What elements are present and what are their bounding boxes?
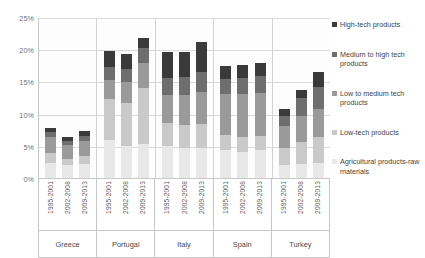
bar-segment [313,163,324,178]
stacked-bar-chart: 0%5%10%15%20%25% 1995-20012002-20082009-… [0,0,425,258]
legend-label: High-tech products [340,20,400,30]
bar-segment [255,93,266,136]
bar-segment [62,165,73,178]
y-axis-tick-label: 0% [23,175,34,184]
bar-segment [62,145,73,159]
bar-segment [179,95,190,125]
legend-item[interactable]: Medium to high tech products [332,50,422,69]
bar-segment [104,80,115,99]
legend-label: Low-tech products [340,128,399,138]
period-label: 2002-2008 [120,181,131,214]
legend-swatch-icon [332,22,337,27]
bar-segment [162,52,173,78]
bar[interactable] [255,63,266,178]
bar-group-greece [39,18,97,178]
y-axis-tick-label: 15% [19,78,34,87]
bar-segment [196,92,207,124]
bar-segment [45,153,56,163]
bar-segment [237,78,248,95]
period-label: 1995-2001 [45,181,56,214]
y-axis-tick-label: 20% [19,46,34,55]
bar[interactable] [220,66,231,178]
legend-label: Agricultural products-raw materials [340,157,422,176]
legend-label: Medium to high tech products [340,50,422,69]
bar-segment [138,88,149,144]
period-labels: 1995-20012002-20082009-2013 [155,179,212,231]
bar-segment [313,137,324,162]
period-labels: 1995-20012002-20082009-2013 [97,179,154,231]
bar[interactable] [162,52,173,178]
bar[interactable] [196,42,207,178]
country-label: Spain [214,231,271,257]
bar-groups [39,18,330,178]
bar[interactable] [138,38,149,178]
bar-segment [121,103,132,147]
bar-segment [196,148,207,178]
x-axis-group-spain: 1995-20012002-20082009-2013Spain [214,179,272,258]
bar-segment [196,124,207,148]
bar-segment [237,94,248,137]
period-label: 2009-2013 [79,181,90,214]
bar[interactable] [45,128,56,178]
bar-group-turkey [273,18,330,178]
bar-segment [313,72,324,87]
bar-segment [279,126,290,148]
bar-segment [162,123,173,146]
legend-item[interactable]: Low to medium tech products [332,89,422,108]
period-label: 2009-2013 [312,181,323,214]
bar-segment [104,140,115,178]
bar-segment [121,69,132,83]
legend-item[interactable]: Agricultural products-raw materials [332,157,422,176]
bar[interactable] [79,131,90,178]
bar-segment [121,82,132,103]
bar-segment [162,146,173,178]
bar-segment [296,164,307,178]
bar-segment [79,141,90,156]
plot-area [38,18,330,179]
period-label: 2009-2013 [137,181,148,214]
bar-segment [196,42,207,73]
bar-segment [237,152,248,178]
country-label: Greece [39,231,96,257]
bar[interactable] [313,72,324,178]
x-axis-group-greece: 1995-20012002-20082009-2013Greece [38,179,97,258]
bar[interactable] [279,109,290,178]
legend-item[interactable]: Low-tech products [332,128,422,138]
bar[interactable] [179,52,190,178]
period-label: 1995-2001 [103,181,114,214]
bar-segment [296,142,307,164]
legend-item[interactable]: High-tech products [332,20,422,30]
period-labels: 1995-20012002-20082009-2013 [214,179,271,231]
chart-legend: High-tech productsMedium to high tech pr… [332,20,422,196]
bar-segment [104,67,115,80]
bar-segment [162,95,173,123]
x-axis: 1995-20012002-20082009-2013Greece1995-20… [38,179,330,258]
bar-segment [279,148,290,165]
bar-segment [162,78,173,95]
bar[interactable] [104,51,115,178]
period-labels: 1995-20012002-20082009-2013 [39,179,96,231]
period-label: 2002-2008 [62,181,73,214]
bar[interactable] [296,90,307,178]
x-axis-group-turkey: 1995-20012002-20082009-2013Turkey [272,179,330,258]
bar-segment [237,65,248,77]
bar[interactable] [121,54,132,178]
legend-label: Low to medium tech products [340,89,422,108]
country-label: Turkey [272,231,329,257]
bar-group-italy [156,18,214,178]
x-axis-group-portugal: 1995-20012002-20082009-2013Portugal [97,179,155,258]
bar-segment [220,135,231,150]
legend-swatch-icon [332,130,337,135]
bar[interactable] [237,65,248,178]
y-axis-tick-label: 10% [19,110,34,119]
bar-segment [179,77,190,95]
bar-segment [220,79,231,94]
period-labels: 1995-20012002-20082009-2013 [272,179,329,231]
bar-segment [104,51,115,67]
bar-segment [45,137,56,152]
bar-segment [121,146,132,178]
bar[interactable] [62,137,73,178]
period-label: 2002-2008 [295,181,306,214]
x-axis-group-italy: 1995-20012002-20082009-2013Italy [155,179,213,258]
bar-segment [255,63,266,77]
